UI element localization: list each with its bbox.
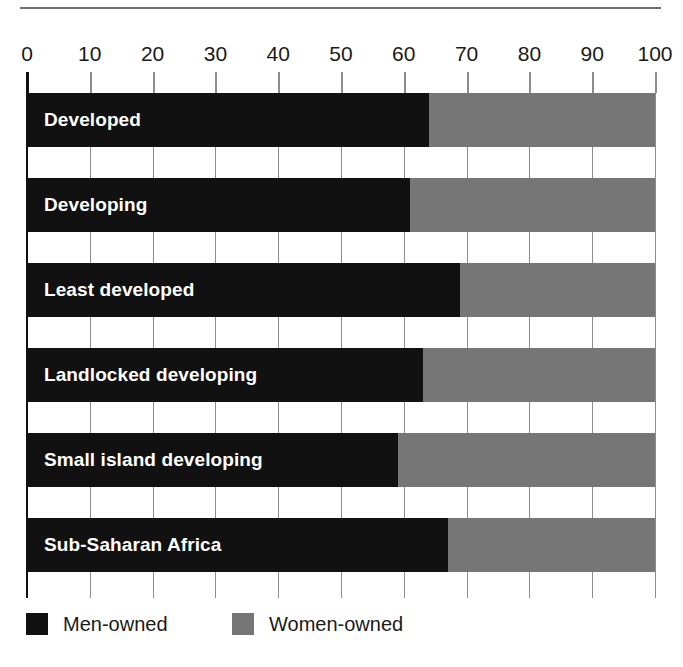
chart-legend: Men-ownedWomen-owned <box>0 609 683 643</box>
x-axis-tick-label: 50 <box>329 42 352 66</box>
bar-group[interactable]: Sub-Saharan Africa <box>27 518 655 572</box>
x-axis-tick-mark <box>26 72 29 93</box>
x-axis-tick-label: 80 <box>518 42 541 66</box>
x-axis-tick-mark <box>341 72 343 93</box>
x-axis-tick-mark <box>215 72 217 93</box>
bar-group[interactable]: Small island developing <box>27 433 655 487</box>
x-axis-tick-mark <box>655 580 656 598</box>
x-axis-tick-mark <box>278 580 279 598</box>
gridline <box>278 93 279 580</box>
gridline <box>404 93 405 580</box>
x-axis-tick-label: 90 <box>581 42 604 66</box>
x-axis-tick-label: 40 <box>267 42 290 66</box>
bar-group[interactable]: Least developed <box>27 263 655 317</box>
x-axis-tick-mark <box>529 72 531 93</box>
bar-group[interactable]: Developed <box>27 93 655 147</box>
x-axis-tick-mark <box>404 72 406 93</box>
bar-segment-women-owned[interactable] <box>423 348 655 402</box>
legend-swatch-icon <box>232 613 254 635</box>
legend-item[interactable]: Men-owned <box>26 609 168 639</box>
x-axis-tick-label: 20 <box>141 42 164 66</box>
x-axis-tick-mark <box>153 580 154 598</box>
x-axis-tick-mark <box>404 580 405 598</box>
plot-area: DevelopedDevelopingLeast developedLandlo… <box>27 93 655 580</box>
x-axis-tick-marks <box>0 72 683 93</box>
x-axis-tick-mark <box>529 580 530 598</box>
x-axis-tick-mark <box>215 580 216 598</box>
bar-group[interactable]: Developing <box>27 178 655 232</box>
stacked-bar-chart: 0102030405060708090100 DevelopedDevelopi… <box>0 0 683 667</box>
x-axis-bottom-tick-marks <box>0 580 683 600</box>
x-axis-tick-mark <box>467 72 469 93</box>
bar-segment-men-owned[interactable] <box>27 93 429 147</box>
legend-label: Men-owned <box>63 613 168 636</box>
x-axis-tick-label: 70 <box>455 42 478 66</box>
bar-segment-men-owned[interactable] <box>27 433 398 487</box>
x-axis-tick-label: 60 <box>392 42 415 66</box>
gridline <box>655 93 656 580</box>
x-axis-tick-labels: 0102030405060708090100 <box>0 42 683 66</box>
gridline <box>90 93 91 580</box>
bar-segment-men-owned[interactable] <box>27 263 460 317</box>
x-axis-tick-mark <box>655 72 657 93</box>
bar-group[interactable]: Landlocked developing <box>27 348 655 402</box>
x-axis-tick-mark <box>592 72 594 93</box>
gridline <box>153 93 154 580</box>
x-axis-tick-mark <box>341 580 342 598</box>
bar-segment-women-owned[interactable] <box>460 263 655 317</box>
x-axis-tick-mark <box>592 580 593 598</box>
bar-segment-men-owned[interactable] <box>27 348 423 402</box>
bar-segment-women-owned[interactable] <box>448 518 655 572</box>
bar-segment-women-owned[interactable] <box>429 93 655 147</box>
bar-segment-women-owned[interactable] <box>410 178 655 232</box>
legend-swatch-icon <box>26 613 48 635</box>
bar-segment-women-owned[interactable] <box>398 433 655 487</box>
x-axis-tick-mark <box>26 580 28 598</box>
x-axis-tick-label: 10 <box>78 42 101 66</box>
gridline <box>592 93 593 580</box>
x-axis-tick-mark <box>153 72 155 93</box>
bar-segment-men-owned[interactable] <box>27 178 410 232</box>
x-axis-tick-mark <box>467 580 468 598</box>
gridline <box>467 93 468 580</box>
y-axis-line <box>26 93 28 580</box>
x-axis-tick-mark <box>278 72 280 93</box>
x-axis-tick-mark <box>90 580 91 598</box>
gridline <box>215 93 216 580</box>
x-axis-tick-label: 30 <box>204 42 227 66</box>
x-axis-tick-label: 0 <box>21 42 33 66</box>
legend-item[interactable]: Women-owned <box>232 609 403 639</box>
x-axis-tick-mark <box>90 72 92 93</box>
gridline <box>341 93 342 580</box>
bar-segment-men-owned[interactable] <box>27 518 448 572</box>
legend-label: Women-owned <box>269 613 403 636</box>
gridline <box>529 93 530 580</box>
x-axis-tick-label: 100 <box>637 42 672 66</box>
